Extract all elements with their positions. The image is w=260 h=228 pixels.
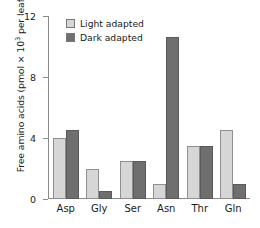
- bar-group: [83, 16, 117, 199]
- bar: [200, 146, 213, 199]
- y-axis-tick-label: 0: [30, 194, 36, 205]
- bar-group: [183, 16, 217, 199]
- y-axis-tick-label: 4: [30, 133, 36, 144]
- legend-swatch-icon: [66, 33, 75, 42]
- bar-group: [217, 16, 251, 199]
- bar-group: [49, 16, 83, 199]
- bar: [187, 146, 200, 199]
- bar-group: [116, 16, 150, 199]
- bar: [120, 161, 133, 199]
- bar: [220, 130, 233, 199]
- y-axis-tick: 0: [43, 199, 48, 200]
- x-axis-category-labels: AspGlySerAsnThrGln: [49, 203, 250, 214]
- bar: [166, 37, 179, 199]
- legend-label: Dark adapted: [80, 32, 143, 43]
- bar-chart-figure: Free amino acids (pmol × 103 per leaf) 0…: [0, 0, 260, 228]
- bar: [53, 138, 66, 199]
- bar: [133, 161, 146, 199]
- y-axis-title-prefix: Free amino acids (pmol × 10: [15, 41, 26, 172]
- x-axis-category-label: Asp: [49, 203, 83, 214]
- x-axis-category-label: Gly: [83, 203, 117, 214]
- x-axis-category-label: Gln: [217, 203, 251, 214]
- bar: [99, 191, 112, 199]
- bars-layer: [49, 16, 250, 199]
- legend-item: Light adapted: [66, 18, 144, 29]
- bar: [233, 184, 246, 199]
- y-axis-tick: 8: [43, 77, 48, 78]
- bar: [86, 169, 99, 200]
- legend-label: Light adapted: [80, 18, 144, 29]
- bar: [153, 184, 166, 199]
- chart-legend: Light adaptedDark adapted: [66, 18, 144, 43]
- y-axis-title-exponent: 3: [14, 37, 22, 41]
- x-axis-category-label: Thr: [183, 203, 217, 214]
- y-axis-tick-label: 12: [24, 11, 36, 22]
- plot-area: 04812: [48, 16, 250, 199]
- x-axis-category-label: Ser: [116, 203, 150, 214]
- x-axis-category-label: Asn: [150, 203, 184, 214]
- legend-item: Dark adapted: [66, 32, 144, 43]
- bar-group: [150, 16, 184, 199]
- y-axis-tick-label: 8: [30, 72, 36, 83]
- y-axis-tick: 4: [43, 138, 48, 139]
- legend-swatch-icon: [66, 19, 75, 28]
- y-axis-tick: 12: [43, 16, 48, 17]
- y-axis-title: Free amino acids (pmol × 103 per leaf): [15, 0, 31, 179]
- bar: [66, 130, 79, 199]
